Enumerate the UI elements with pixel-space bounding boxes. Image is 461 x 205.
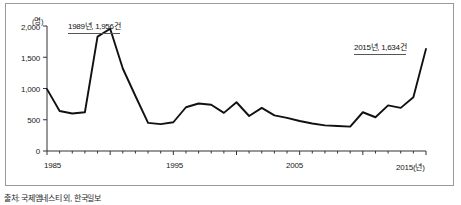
x-axis-ticks <box>47 151 426 155</box>
chart-plot-area: (명) 2,000 1,500 1,000 500 0 1985 1995 20… <box>6 4 455 187</box>
chart-screenshot: (명) 2,000 1,500 1,000 500 0 1985 1995 20… <box>0 0 461 205</box>
annotation-latest-2015: 2015년, 1,634건 <box>354 41 406 55</box>
annotation-peak-1989: 1989년, 1,956건 <box>68 20 120 34</box>
chart-frame: (명) 2,000 1,500 1,000 500 0 1985 1995 20… <box>5 3 454 186</box>
source-note: 출처: 국제앰네스티 외, 한국일보 <box>4 192 101 203</box>
